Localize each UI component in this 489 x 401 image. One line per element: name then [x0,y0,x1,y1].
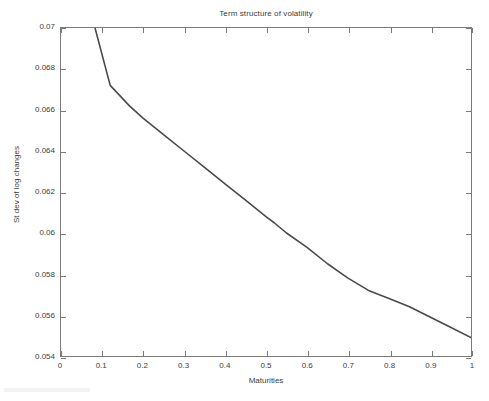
y-tick-label: 0.066 [3,105,55,114]
y-tick-label: 0.054 [3,352,55,361]
x-tick-mark [185,351,186,356]
x-tick-label: 0.7 [328,361,368,370]
y-axis-title-wrapper: St dev of log changes [0,0,1,1]
x-tick-mark-top [472,28,473,33]
y-tick-mark [61,276,66,277]
x-tick-label: 0.3 [164,361,204,370]
plot-line-svg [61,28,471,356]
x-axis-title: Maturities [60,376,472,385]
scan-artifact [4,388,90,392]
x-tick-mark [432,351,433,356]
y-tick-mark [61,234,66,235]
x-tick-mark-top [185,28,186,33]
x-tick-mark-top [267,28,268,33]
x-tick-mark [349,351,350,356]
y-tick-mark [61,111,66,112]
x-tick-mark [102,351,103,356]
y-tick-label: 0.068 [3,63,55,72]
y-tick-mark-right [466,152,471,153]
x-tick-mark-top [432,28,433,33]
y-tick-label: 0.062 [3,187,55,196]
x-tick-mark-top [391,28,392,33]
x-tick-mark [391,351,392,356]
x-tick-mark-top [61,28,62,33]
series-line-term-structure [95,28,471,338]
y-tick-mark [61,152,66,153]
figure-canvas: Term structure of volatility Maturities … [0,0,489,401]
x-tick-mark-top [102,28,103,33]
y-tick-mark [61,317,66,318]
y-tick-mark [61,193,66,194]
y-tick-mark [61,69,66,70]
x-tick-mark-top [143,28,144,33]
y-tick-mark-right [466,111,471,112]
y-tick-mark-right [466,358,471,359]
x-tick-mark [472,351,473,356]
y-tick-mark-right [466,276,471,277]
y-tick-label: 0.064 [3,146,55,155]
x-tick-mark-top [226,28,227,33]
y-tick-mark-right [466,69,471,70]
y-tick-label: 0.07 [3,22,55,31]
x-tick-label: 0 [40,361,80,370]
x-tick-mark [143,351,144,356]
x-tick-label: 0.6 [287,361,327,370]
x-tick-label: 0.4 [205,361,245,370]
x-tick-mark-top [349,28,350,33]
x-tick-mark [61,351,62,356]
x-tick-mark [267,351,268,356]
x-tick-mark-top [308,28,309,33]
x-tick-label: 0.2 [122,361,162,370]
y-tick-label: 0.06 [3,228,55,237]
x-tick-label: 0.1 [81,361,121,370]
x-tick-label: 0.8 [370,361,410,370]
y-tick-label: 0.056 [3,311,55,320]
plot-area [60,27,472,357]
y-tick-mark-right [466,317,471,318]
y-tick-mark-right [466,28,471,29]
x-tick-mark [308,351,309,356]
y-tick-mark-right [466,193,471,194]
x-tick-label: 0.9 [411,361,451,370]
chart-title: Term structure of volatility [60,9,472,18]
x-tick-label: 0.5 [246,361,286,370]
y-tick-mark [61,358,66,359]
x-tick-label: 1 [452,361,489,370]
y-tick-label: 0.058 [3,270,55,279]
y-tick-mark-right [466,234,471,235]
x-tick-mark [226,351,227,356]
